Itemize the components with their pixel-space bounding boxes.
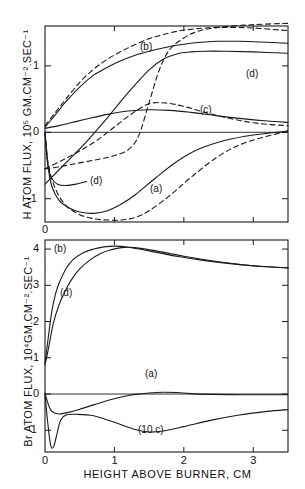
lower-x-tick-label-1: 1 xyxy=(111,454,117,466)
upper-panel-plot xyxy=(0,0,305,240)
lower-y-tick-label-3: 3 xyxy=(33,278,39,290)
curve-label-upper-0: (b) xyxy=(140,41,152,52)
lower-x-tick-label-3: 3 xyxy=(250,454,256,466)
curve-0-7 xyxy=(45,131,288,220)
lower-x-tick-label-0: 0 xyxy=(42,454,48,466)
curve-1-1 xyxy=(45,247,288,365)
lower-y-tick-label-1: 1 xyxy=(33,351,39,363)
lower-panel-plot xyxy=(0,232,305,472)
upper-y-tick-label-1: 1 xyxy=(33,59,39,71)
curve-1-3 xyxy=(45,394,288,448)
curve-label-lower-0: (b) xyxy=(54,243,66,254)
upper-y-tick-label-0: 0 xyxy=(33,125,39,137)
curve-label-lower-3: (10 c) xyxy=(138,424,164,435)
curve-0-8 xyxy=(45,132,87,185)
upper-y-tick-label--1: -1 xyxy=(27,192,37,204)
lower-y-tick-label--1: -1 xyxy=(27,423,37,435)
lower-y-tick-label-0: 0 xyxy=(33,387,39,399)
x-axis-title: HEIGHT ABOVE BURNER, CM xyxy=(55,468,280,480)
lower-y-tick-label-4: 4 xyxy=(33,242,39,254)
curve-label-upper-4: (a) xyxy=(150,183,162,194)
curve-label-lower-2: (a) xyxy=(145,368,157,379)
curve-1-0 xyxy=(45,246,288,363)
curve-label-lower-1: (d) xyxy=(60,287,72,298)
upper-x-tick-label-0: 0 xyxy=(42,223,48,235)
curve-1-2 xyxy=(45,392,288,414)
lower-x-tick-label-2: 2 xyxy=(181,454,187,466)
figure-container: H ATOM FLUX, 10⁵ GM.CM⁻².SEC⁻¹ Br ATOM F… xyxy=(0,0,305,489)
plot-frame xyxy=(45,240,288,452)
curve-0-6 xyxy=(45,131,288,213)
curve-label-upper-2: (c) xyxy=(200,104,212,115)
lower-y-tick-label-2: 2 xyxy=(33,315,39,327)
curve-label-upper-3: (d) xyxy=(90,175,102,186)
curve-0-4 xyxy=(45,110,288,129)
curve-label-upper-1: (d) xyxy=(246,68,258,79)
